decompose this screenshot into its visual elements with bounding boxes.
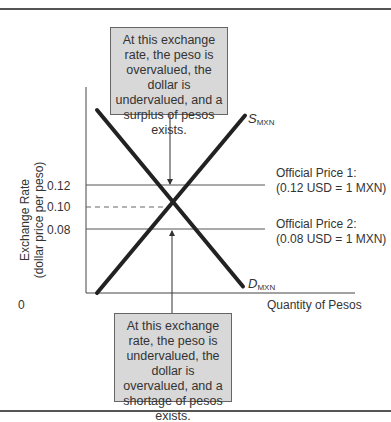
official-price-2-value: (0.08 USD = 1 MXN) — [276, 232, 386, 246]
y-tick-label: 0.10 — [47, 200, 70, 214]
y-axis-label: Exchange Rate (dollar price per peso) — [2, 160, 62, 280]
origin-label: 0 — [18, 298, 25, 312]
supply-curve — [97, 116, 245, 294]
demand-label-main: D — [248, 276, 257, 291]
y-tick-label: 0.08 — [47, 223, 70, 237]
demand-curve-label: DMXN — [248, 276, 275, 292]
y-axis-label-line1: Exchange Rate — [18, 179, 32, 261]
demand-label-sub: MXN — [257, 283, 275, 292]
y-tick-label: 0.12 — [47, 179, 70, 193]
official-price-2-label: Official Price 2: (0.08 USD = 1 MXN) — [276, 217, 386, 247]
annotation-undervalued: At this exchange rate, the peso is under… — [114, 313, 232, 402]
y-axis-label-line2: (dollar price per peso) — [32, 162, 46, 279]
official-price-1-title: Official Price 1: — [276, 166, 356, 180]
official-price-2-title: Official Price 2: — [276, 217, 356, 231]
official-price-1-value: (0.12 USD = 1 MXN) — [276, 181, 386, 195]
x-axis-label: Quantity of Pesos — [267, 298, 362, 312]
supply-label-main: S — [248, 111, 257, 126]
annotation-overvalued: At this exchange rate, the peso is overv… — [110, 27, 228, 115]
supply-label-sub: MXN — [257, 118, 275, 127]
supply-curve-label: SMXN — [248, 111, 274, 127]
official-price-1-label: Official Price 1: (0.12 USD = 1 MXN) — [276, 166, 386, 196]
